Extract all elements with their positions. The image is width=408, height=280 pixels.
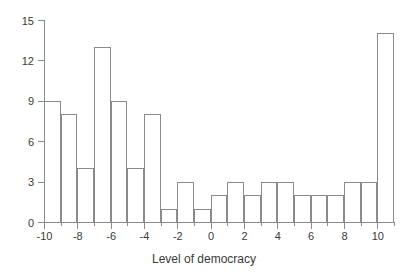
x-axis-tick: -10 [44,223,45,229]
x-axis-tick: -2 [177,223,178,229]
x-axis-minor-tick [294,223,295,226]
x-axis-tick-label: 2 [241,231,247,242]
x-axis-tick-label: 0 [208,231,214,242]
x-axis-tick-label: -6 [106,231,116,242]
histogram-bar [177,182,194,222]
y-axis-tick-label: 6 [28,136,34,147]
x-axis-tick-label: 6 [308,231,314,242]
x-axis-line [44,222,395,223]
y-axis-tick-label: 15 [22,15,34,26]
y-axis-tick-label: 3 [28,177,34,188]
x-axis-tick-label: 8 [341,231,347,242]
x-axis-minor-tick [327,223,328,226]
histogram-bar [144,114,161,222]
histogram-bar [327,195,344,222]
y-axis-tick-label: 12 [22,55,34,66]
histogram-bar [211,195,228,222]
x-axis-tick-label: -10 [37,231,53,242]
x-axis-tick: 8 [344,223,345,229]
histogram-bar [61,114,78,222]
x-axis-minor-tick [61,223,62,226]
x-axis-minor-tick [261,223,262,226]
histogram-bar [161,209,178,222]
x-axis-tick-label: -4 [140,231,150,242]
histogram-bar [227,182,244,222]
x-axis-tick: -4 [144,223,145,229]
histogram-bar [44,101,61,222]
x-axis-minor-tick [127,223,128,226]
x-axis-title: Level of democracy [0,252,408,266]
histogram-bar [244,195,261,222]
x-axis-minor-tick [161,223,162,226]
plot-area [44,20,394,222]
histogram-bar [361,182,378,222]
histogram-bar [194,209,211,222]
x-axis-tick: 4 [277,223,278,229]
x-axis-tick: 2 [244,223,245,229]
histogram-bar [261,182,278,222]
y-axis-tick-label: 0 [28,217,34,228]
x-axis-minor-tick [361,223,362,226]
histogram-bar [377,33,394,222]
x-axis-tick: 10 [377,223,378,229]
histogram-bar [94,47,111,222]
histogram-bar [277,182,294,222]
x-axis-tick: -6 [111,223,112,229]
histogram-bar [111,101,128,222]
x-axis-tick-label: 10 [372,231,384,242]
histogram-bar [77,168,94,222]
x-axis-tick: 6 [311,223,312,229]
histogram-bar [344,182,361,222]
histogram-bar [294,195,311,222]
x-axis-tick: -8 [77,223,78,229]
histogram-bar [311,195,328,222]
x-axis-minor-tick [194,223,195,226]
histogram-figure: 03691215 -10-8-6-4-20246810 Level of dem… [0,0,408,280]
x-axis-minor-tick [227,223,228,226]
x-axis-minor-tick [394,223,395,226]
x-axis-tick-label: -2 [173,231,183,242]
x-axis-minor-tick [94,223,95,226]
x-axis-tick-label: -8 [73,231,83,242]
y-axis-tick-label: 9 [28,96,34,107]
histogram-bar [127,168,144,222]
x-axis-tick-label: 4 [275,231,281,242]
x-axis-tick: 0 [211,223,212,229]
